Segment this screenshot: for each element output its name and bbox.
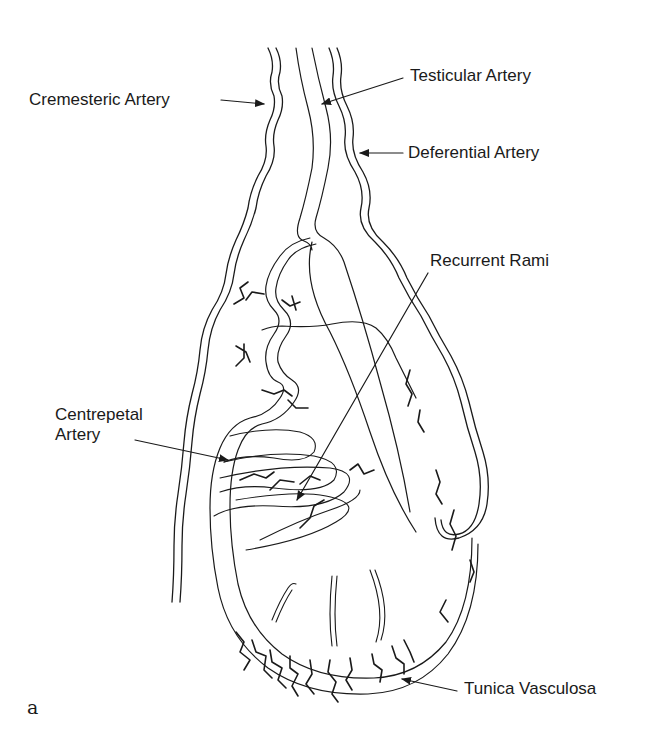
panel-letter: a <box>27 696 38 718</box>
label-centrepetal-line1: Centrepetal <box>55 405 143 425</box>
recurrent-branch-vessels <box>210 238 478 694</box>
cremesteric-artery-vessel <box>172 48 283 602</box>
deferential-artery-vessel <box>329 48 488 539</box>
label-centrepetal-line2: Artery <box>55 425 100 445</box>
testicular-artery-vessel <box>296 48 416 532</box>
radial-arterioles <box>272 570 385 646</box>
label-cremesteric-artery: Cremesteric Artery <box>29 90 170 110</box>
label-tunica-vasculosa: Tunica Vasculosa <box>464 679 596 699</box>
label-testicular-artery: Testicular Artery <box>410 66 531 86</box>
label-recurrent-rami: Recurrent Rami <box>430 251 549 271</box>
tunica-vasculosa-twigs <box>234 282 474 702</box>
label-deferential-artery: Deferential Artery <box>408 143 539 163</box>
testis-arterial-diagram <box>0 0 652 736</box>
centrepetal-loops <box>214 430 360 550</box>
